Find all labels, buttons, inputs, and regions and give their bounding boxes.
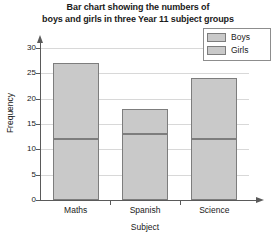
bar-spanish	[122, 109, 168, 200]
y-tick-label: 25	[14, 69, 36, 77]
x-axis-title: Subject	[41, 222, 249, 232]
x-tick-label-science: Science	[184, 205, 244, 215]
y-tick-mark	[36, 175, 41, 176]
y-tick-label: 5	[14, 171, 36, 179]
y-tick-label: 30	[14, 44, 36, 52]
bar-segment-girls	[53, 63, 99, 139]
legend-swatch-boys-icon	[207, 33, 226, 42]
legend-swatch-girls-icon	[207, 46, 226, 55]
x-axis-arrow-icon	[256, 197, 264, 203]
y-tick-mark	[36, 124, 41, 125]
y-tick-mark	[36, 99, 41, 100]
y-tick-label: 0	[14, 196, 36, 204]
plot-area	[41, 48, 249, 200]
chart-title-line-2: boys and girls in three Year 11 subject …	[0, 14, 276, 26]
y-tick-label: 15	[14, 120, 36, 128]
bar-segment-boys	[53, 139, 99, 200]
y-tick-mark	[36, 48, 41, 49]
y-tick-label: 10	[14, 145, 36, 153]
bar-segment-boys	[191, 139, 237, 200]
bar-science	[191, 78, 237, 200]
y-tick-mark	[36, 149, 41, 150]
chart-legend: Boys Girls	[203, 28, 271, 61]
x-tick-label-spanish: Spanish	[115, 205, 175, 215]
bar-chart: Bar chart showing the numbers of boys an…	[0, 0, 276, 240]
y-axis-title: Frequency	[5, 73, 15, 153]
y-tick-mark	[36, 200, 41, 201]
y-tick-mark	[36, 73, 41, 74]
y-axis-arrow-icon	[37, 35, 43, 43]
legend-item-girls: Girls	[207, 44, 267, 57]
x-axis-line	[40, 200, 258, 201]
y-axis-line	[40, 42, 41, 201]
x-tick-mark	[180, 200, 181, 205]
legend-label-girls: Girls	[231, 46, 248, 55]
legend-label-boys: Boys	[231, 33, 250, 42]
bar-segment-girls	[122, 109, 168, 134]
chart-title: Bar chart showing the numbers of boys an…	[0, 2, 276, 25]
x-tick-mark	[110, 200, 111, 205]
bar-segment-boys	[122, 134, 168, 200]
x-tick-label-maths: Maths	[46, 205, 106, 215]
legend-item-boys: Boys	[207, 31, 267, 44]
chart-title-line-1: Bar chart showing the numbers of	[0, 2, 276, 14]
bar-maths	[53, 63, 99, 200]
y-tick-label: 20	[14, 95, 36, 103]
bar-segment-girls	[191, 78, 237, 139]
